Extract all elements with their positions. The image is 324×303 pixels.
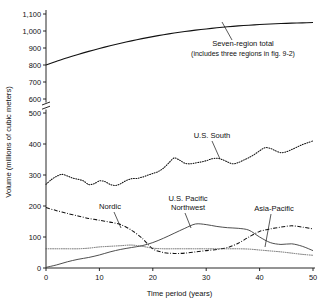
y-tick-label: 100 <box>29 233 41 242</box>
annotation-asia-pacific: Asia-Pacific <box>254 204 294 247</box>
y-tick-label: 0 <box>37 264 41 273</box>
y-tick-label: 500 <box>29 109 41 118</box>
series-us-pacific-northwest <box>46 224 313 268</box>
annotation-leader-line <box>222 22 232 40</box>
annotation-group: Seven-region total(includes three region… <box>99 22 295 247</box>
y-tick-label: 200 <box>29 202 41 211</box>
annotation-leader-line <box>114 212 121 228</box>
line-chart: 01002003004005006007008009001,0001,10001… <box>0 0 324 303</box>
y-tick-label: 1,000 <box>23 27 42 36</box>
series-asia-pacific <box>46 245 313 255</box>
x-tick-label: 50 <box>309 273 317 282</box>
annotation-leader-line <box>185 213 191 228</box>
annotation-sublabel: (includes three regions in fig. 9-2) <box>191 50 295 58</box>
chart-figure: 01002003004005006007008009001,0001,10001… <box>0 0 324 303</box>
y-tick-label: 600 <box>29 95 41 104</box>
x-tick-label: 20 <box>149 273 157 282</box>
x-tick-label: 40 <box>255 273 263 282</box>
axis-break-icon <box>42 102 50 109</box>
y-tick-label: 700 <box>29 78 41 87</box>
annotation-us-south: U.S. South <box>194 131 231 159</box>
y-tick-label: 1,100 <box>23 10 42 19</box>
x-tick-label: 10 <box>95 273 103 282</box>
x-tick-label: 0 <box>44 273 48 282</box>
series-us-south <box>46 141 313 186</box>
x-tick-label: 30 <box>202 273 210 282</box>
annotation-leader-line <box>212 141 220 159</box>
annotation-sublabel: Northwest <box>171 203 206 212</box>
annotation-label: Asia-Pacific <box>254 204 294 213</box>
annotation-label: Nordic <box>99 202 121 211</box>
y-axis-title: Volume (millions of cubic meters) <box>4 86 13 198</box>
annotation-label: U.S. South <box>194 131 231 140</box>
y-tick-label: 900 <box>29 44 41 53</box>
annotation-label: Seven-region total <box>212 39 274 48</box>
y-tick-label: 800 <box>29 61 41 70</box>
annotation-label: U.S. Pacific <box>168 194 207 203</box>
annotation-seven-region-total: Seven-region total(includes three region… <box>191 22 295 58</box>
annotation-us-pacific-northwest: U.S. PacificNorthwest <box>168 194 207 228</box>
x-axis-title: Time period (years) <box>147 289 213 298</box>
series-group <box>46 23 313 268</box>
y-tick-label: 400 <box>29 140 41 149</box>
y-tick-label: 300 <box>29 171 41 180</box>
